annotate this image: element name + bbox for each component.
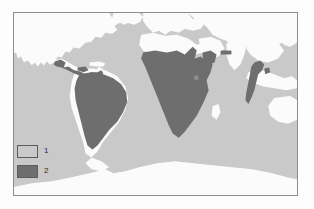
map-frame: 1 2	[13, 12, 298, 196]
legend-swatch-1	[17, 145, 38, 158]
world-map-svg	[14, 13, 297, 195]
legend-row-2: 2	[17, 164, 48, 178]
legend-swatch-2	[17, 165, 38, 178]
legend-label-2: 2	[44, 167, 48, 175]
legend-label-1: 1	[44, 147, 48, 155]
legend-row-1: 1	[17, 144, 48, 158]
map-canvas	[14, 13, 297, 195]
range-central-asia-bar	[221, 51, 232, 55]
figure-container: 1 2	[0, 0, 314, 209]
map-legend: 1 2	[17, 144, 48, 178]
